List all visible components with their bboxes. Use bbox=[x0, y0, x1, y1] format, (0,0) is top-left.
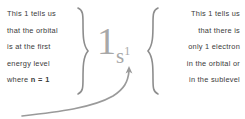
left-annotation-line-5: where n = 1 bbox=[7, 72, 58, 89]
principal-quantum-number-equation: n = 1 bbox=[31, 75, 50, 84]
orbital-notation: 1s1 bbox=[97, 22, 130, 60]
notation-electron-count: 1 bbox=[124, 44, 130, 58]
right-annotation-line-2: that there is bbox=[187, 23, 240, 40]
notation-principal-number: 1 bbox=[97, 20, 116, 62]
notation-sublevel-letter: s bbox=[116, 44, 124, 68]
left-annotation-line-3: is at the first bbox=[7, 39, 58, 56]
left-annotation-line-5-prefix: where bbox=[7, 75, 31, 84]
right-annotation-line-4: in the orbital or bbox=[187, 56, 240, 73]
right-curly-brace bbox=[146, 7, 160, 95]
right-annotation-line-5: in the sublevel bbox=[187, 72, 240, 89]
left-annotation-line-2: that the orbital bbox=[7, 23, 58, 40]
right-annotation-line-1: This 1 tells us bbox=[187, 6, 240, 23]
left-annotation-text: This 1 tells us that the orbital is at t… bbox=[7, 6, 58, 89]
right-annotation-line-3: only 1 electron bbox=[187, 39, 240, 56]
left-curly-brace bbox=[76, 7, 90, 95]
right-annotation-text: This 1 tells us that there is only 1 ele… bbox=[187, 6, 240, 89]
left-annotation-line-1: This 1 tells us bbox=[7, 6, 58, 23]
orbital-notation-figure: This 1 tells us that the orbital is at t… bbox=[0, 0, 245, 119]
left-annotation-line-4: energy level bbox=[7, 56, 58, 73]
